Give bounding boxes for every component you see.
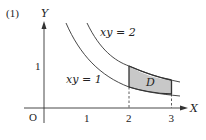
x-tick-3: 3 — [169, 112, 175, 124]
y-axis-arrow-icon — [42, 21, 47, 29]
y-tick-1: 1 — [35, 60, 41, 72]
curve-label-xy-2: xy = 2 — [100, 26, 136, 39]
x-axis-arrow-icon — [180, 106, 188, 111]
diagram-canvas: (1) Y X O 1 2 3 1 xy = 2 xy = 1 D — [0, 0, 206, 140]
origin-label: O — [29, 111, 37, 123]
curve-label-xy-1: xy = 1 — [66, 73, 102, 86]
x-axis-label: X — [189, 102, 199, 115]
x-tick-1: 1 — [84, 112, 90, 124]
y-axis-label: Y — [41, 7, 50, 20]
problem-number: (1) — [6, 7, 19, 20]
x-tick-2: 2 — [126, 112, 132, 124]
region-label: D — [145, 76, 155, 89]
